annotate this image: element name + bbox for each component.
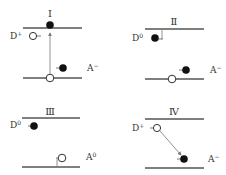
ionized-donor-icon	[153, 124, 160, 131]
acceptor-label: A0	[85, 151, 97, 162]
panel-IV: Ⅳ D+ A−	[132, 106, 220, 168]
panel-II: Ⅱ D0 A−	[132, 16, 222, 83]
panel-label: Ⅳ	[169, 106, 180, 117]
electron-icon	[46, 21, 54, 29]
donor-label: D+	[132, 122, 144, 133]
panel-label: Ⅰ	[48, 8, 52, 19]
panel-label: Ⅱ	[171, 16, 178, 27]
acceptor-label: A−	[86, 62, 99, 73]
acceptor-label: A−	[207, 153, 220, 164]
panel-III: Ⅲ D0 A0	[10, 106, 97, 167]
panel-label: Ⅲ	[45, 106, 55, 117]
ionized-acceptor-icon	[180, 155, 188, 163]
acceptor-label: A−	[209, 64, 222, 75]
neutral-acceptor-icon	[58, 154, 66, 162]
donor-label: D0	[132, 32, 143, 43]
ionized-acceptor-icon	[59, 64, 67, 72]
donor-acceptor-diagram: Ⅰ D+ A− Ⅱ D0 A−	[0, 0, 226, 175]
hole-icon	[168, 75, 176, 83]
neutral-donor-icon	[30, 122, 38, 130]
ionized-donor-icon	[29, 32, 36, 39]
donor-label: D+	[10, 30, 22, 41]
recombination-arrow	[160, 131, 181, 155]
ionized-acceptor-icon	[182, 66, 190, 74]
hole-icon	[46, 74, 54, 82]
neutral-donor-icon	[151, 34, 159, 42]
panel-I: Ⅰ D+ A−	[10, 8, 99, 82]
donor-label: D0	[10, 119, 21, 130]
